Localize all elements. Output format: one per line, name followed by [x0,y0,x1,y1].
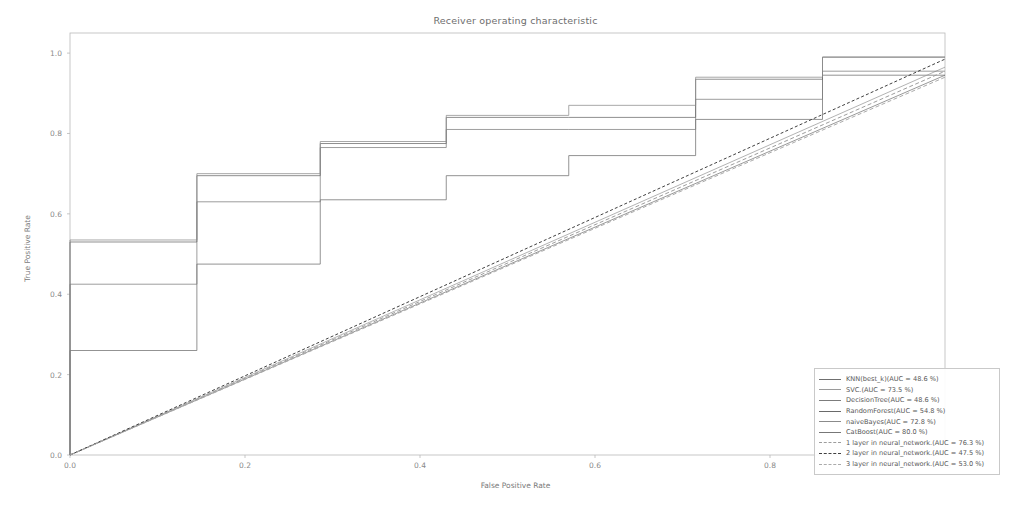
chart-legend[interactable]: KNN(best_k)(AUC = 48.6 %)SVC.(AUC = 73.5… [814,368,1000,475]
y-tick-label: 1.0 [36,49,62,58]
legend-item[interactable]: naiveBayes(AUC = 72.8 %) [819,416,994,427]
figure-canvas: Receiver operating characteristic 0.00.2… [0,0,1031,505]
legend-item[interactable]: DecisionTree(AUC = 48.6 %) [819,395,994,406]
legend-line-swatch [819,386,841,394]
y-axis-label: True Positive Rate [23,189,32,309]
x-axis-label: False Positive Rate [0,481,1031,490]
legend-label: DecisionTree(AUC = 48.6 %) [846,395,940,405]
x-tick-label: 0.6 [589,461,601,470]
legend-line-swatch [819,460,841,468]
legend-line-swatch [819,396,841,404]
legend-label: KNN(best_k)(AUC = 48.6 %) [846,374,939,384]
legend-label: SVC.(AUC = 73.5 %) [846,385,913,395]
legend-line-swatch [819,407,841,415]
x-tick-label: 0.8 [764,461,776,470]
legend-label: 3 layer in neural_network.(AUC = 53.0 %) [846,459,984,469]
legend-item[interactable]: 3 layer in neural_network.(AUC = 53.0 %) [819,459,994,470]
legend-label: 2 layer in neural_network.(AUC = 47.5 %) [846,448,984,458]
legend-item[interactable]: 2 layer in neural_network.(AUC = 47.5 %) [819,448,994,459]
legend-line-swatch [819,439,841,447]
legend-line-swatch [819,418,841,426]
y-tick-label: 0.4 [36,290,62,299]
y-tick-label: 0.2 [36,370,62,379]
y-tick-label: 0.0 [36,451,62,460]
legend-line-swatch [819,375,841,383]
legend-item[interactable]: CatBoost(AUC = 80.0 %) [819,427,994,438]
legend-item[interactable]: SVC.(AUC = 73.5 %) [819,385,994,396]
legend-line-swatch [819,449,841,457]
legend-label: naiveBayes(AUC = 72.8 %) [846,417,936,427]
y-tick-label: 0.8 [36,129,62,138]
x-tick-label: 0.2 [239,461,251,470]
legend-label: 1 layer in neural_network.(AUC = 76.3 %) [846,438,984,448]
legend-label: CatBoost(AUC = 80.0 %) [846,427,928,437]
legend-item[interactable]: RandomForest(AUC = 54.8 %) [819,406,994,417]
x-tick-label: 0.4 [414,461,426,470]
legend-label: RandomForest(AUC = 54.8 %) [846,406,945,416]
legend-item[interactable]: KNN(best_k)(AUC = 48.6 %) [819,374,994,385]
x-tick-label: 0.0 [64,461,76,470]
legend-line-swatch [819,428,841,436]
y-tick-label: 0.6 [36,209,62,218]
legend-item[interactable]: 1 layer in neural_network.(AUC = 76.3 %) [819,438,994,449]
